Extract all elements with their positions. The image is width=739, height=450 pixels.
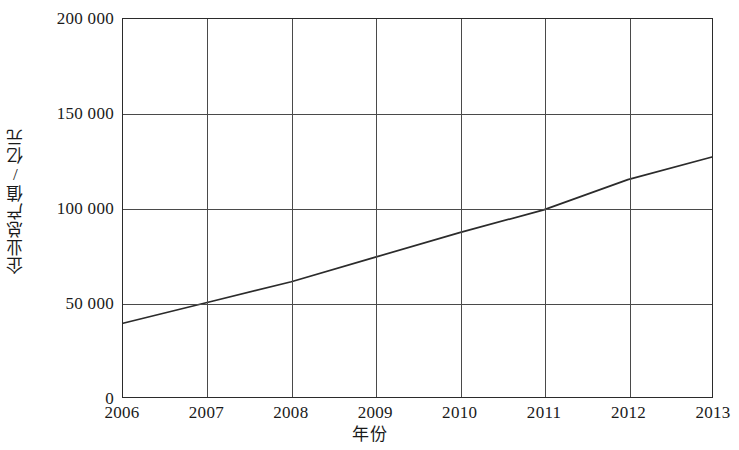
gridline-vertical	[207, 19, 208, 397]
gridline-horizontal	[123, 114, 712, 115]
gridline-vertical	[630, 19, 631, 397]
x-tick-label: 2012	[584, 402, 674, 424]
y-tick-label: 150 000	[2, 105, 114, 122]
gridline-vertical	[376, 19, 377, 397]
data-series-line	[123, 19, 712, 397]
y-tick-label: 100 000	[2, 200, 114, 217]
gridline-vertical	[545, 19, 546, 397]
x-tick-label: 2007	[161, 402, 251, 424]
x-tick-label: 2010	[415, 402, 505, 424]
x-tick-label: 2009	[330, 402, 420, 424]
y-tick-label: 50 000	[2, 295, 114, 312]
x-tick-label: 2006	[77, 402, 167, 424]
x-tick-label: 2008	[246, 402, 336, 424]
x-tick-label: 2011	[499, 402, 589, 424]
plot-area	[122, 18, 713, 398]
gridline-vertical	[461, 19, 462, 397]
y-tick-label: 200 000	[2, 10, 114, 27]
gridline-horizontal	[123, 304, 712, 305]
line-chart: 企业总产值/亿元 050 000100 000150 000200 000 20…	[0, 0, 739, 450]
gridline-vertical	[292, 19, 293, 397]
x-tick-label: 2013	[668, 402, 739, 424]
y-axis-tick-labels: 050 000100 000150 000200 000	[0, 0, 114, 450]
gridline-horizontal	[123, 209, 712, 210]
x-axis-title: 年份	[0, 424, 739, 446]
